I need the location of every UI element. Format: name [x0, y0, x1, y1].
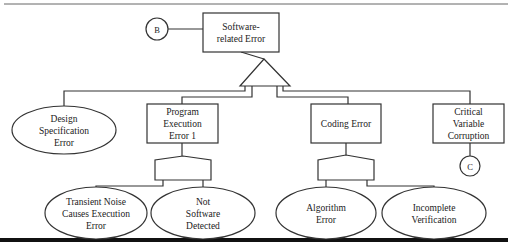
node-label: Transient Noise	[66, 197, 126, 207]
design-specification-error-wire	[64, 86, 245, 106]
node-label: Variable	[453, 119, 485, 129]
node-label: Corruption	[448, 131, 490, 141]
node-label: Program	[166, 107, 199, 117]
node-label: Coding Error	[321, 119, 372, 129]
node-label: Detected	[186, 221, 220, 231]
node-label: Design	[51, 114, 78, 124]
node-label: Verification	[412, 215, 457, 225]
node-label: Specification	[39, 126, 89, 136]
basic-event-ellipse	[276, 187, 376, 239]
node-label: Software-	[222, 22, 259, 32]
event-box	[203, 13, 279, 52]
fault-tree-diagram: BSoftware-related ErrorDesignSpecificati…	[0, 0, 513, 249]
transient-noise-wire	[96, 180, 163, 187]
critical-variable-corruption-node: CriticalVariableCorruption	[433, 104, 504, 143]
transfer-label: C	[467, 162, 473, 172]
node-label: Execution	[163, 119, 202, 129]
transfer-label: B	[154, 25, 160, 35]
node-label: Error 1	[169, 131, 196, 141]
design-specification-error-node: DesignSpecificationError	[12, 106, 116, 154]
node-label: Error	[86, 221, 107, 231]
incomplete-verification-node: IncompleteVerification	[382, 187, 486, 239]
coding-error-node: Coding Error	[311, 104, 381, 143]
transient-noise-node: Transient NoiseCauses ExecutionError	[45, 187, 147, 239]
basic-event-ellipse	[382, 187, 486, 239]
transfer-c-transfer-symbol: C	[460, 156, 480, 176]
node-label: Causes Execution	[62, 209, 130, 219]
not-software-detected-node: NotSoftwareDetected	[151, 187, 255, 239]
transfer-b-transfer-symbol: B	[146, 18, 168, 40]
coding-error-wire	[277, 86, 348, 104]
node-label: Error	[316, 215, 337, 225]
node-label: related Error	[217, 34, 266, 44]
and-gate-icon	[155, 156, 211, 180]
incomplete-verification-wire	[367, 180, 434, 187]
program-execution-error-1-node: ProgramExecutionError 1	[147, 104, 218, 143]
node-label: Critical	[454, 107, 483, 117]
algorithm-error-node: AlgorithmError	[276, 187, 376, 239]
or-gate-icon	[240, 59, 290, 86]
node-label: Not	[196, 197, 211, 207]
software-related-error-node: Software-related Error	[203, 13, 279, 52]
and-gate-icon	[318, 155, 374, 180]
top-event-stem-wire	[241, 52, 264, 59]
critical-variable-corruption-wire	[283, 86, 470, 104]
node-label: Software	[186, 209, 220, 219]
node-label: Error	[54, 138, 75, 148]
node-label: Incomplete	[413, 203, 456, 213]
program-execution-error-1-wire	[182, 86, 252, 104]
node-label: Algorithm	[306, 203, 346, 213]
